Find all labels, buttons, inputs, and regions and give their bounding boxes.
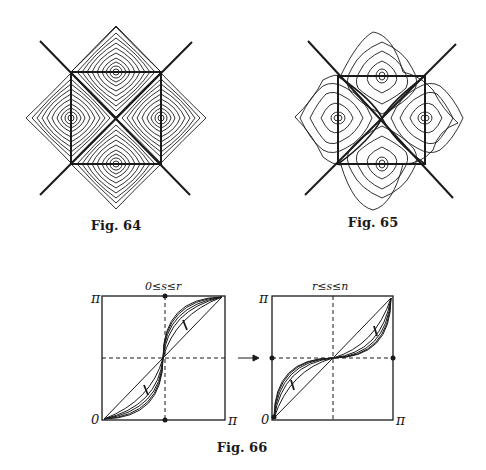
right-panel-x-right: π [396, 412, 405, 428]
right-panel-title: r≤s≤n [312, 280, 348, 293]
left-panel-y-bottom: 0 [91, 412, 99, 427]
left-panel-y-top: π [91, 290, 100, 306]
figure-65-caption: Fig. 65 [343, 215, 403, 230]
left-panel-title: 0≤s≤r [145, 280, 181, 293]
figure-65: Fig. 65 [243, 0, 486, 240]
figure-64-drawing [0, 0, 243, 240]
figure-66: 0≤s≤r π 0 π r≤s≤n π 0 π Fig. 66 [0, 240, 486, 470]
left-panel-x-right: π [228, 412, 237, 428]
figure-66-drawing [0, 240, 486, 470]
figure-65-drawing [243, 0, 486, 240]
right-panel-y-bottom: 0 [261, 412, 269, 427]
figure-64-caption: Fig. 64 [86, 218, 146, 233]
figure-66-caption: Fig. 66 [212, 440, 272, 455]
figure-64: Fig. 64 [0, 0, 243, 240]
right-panel-y-top: π [259, 290, 268, 306]
